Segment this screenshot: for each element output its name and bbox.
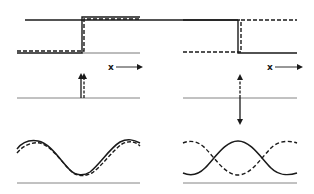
left-step-plot: x — [17, 17, 140, 72]
wave-step-diagram: x x — [0, 0, 314, 194]
right-wave-solid — [183, 141, 297, 175]
left-impulse-plot — [17, 76, 140, 98]
left-panel: x — [17, 17, 140, 183]
right-panel: x — [25, 20, 300, 183]
left-step-dashed — [17, 19, 140, 51]
right-wave-dashed — [183, 141, 297, 175]
left-wave-plot — [17, 140, 140, 183]
right-step-plot: x — [25, 20, 300, 72]
right-step-solid-2 — [238, 20, 297, 53]
right-impulse-plot — [183, 77, 297, 122]
right-x-label: x — [267, 62, 273, 72]
left-wave-solid — [17, 140, 140, 175]
right-wave-plot — [183, 141, 297, 183]
left-step-solid — [17, 17, 140, 53]
right-step-dashed — [183, 20, 297, 52]
left-x-label: x — [108, 62, 114, 72]
left-wave-dashed — [17, 142, 140, 176]
